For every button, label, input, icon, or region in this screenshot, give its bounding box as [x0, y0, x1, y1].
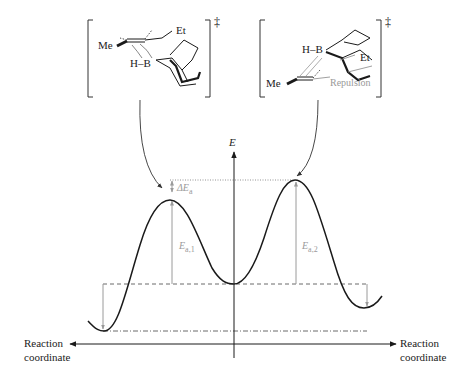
ts-right-arrow: [297, 100, 318, 176]
ea2-label: Ea,2: [302, 240, 318, 256]
ts-left-double-dagger: ‡: [214, 16, 220, 28]
energy-curve: [88, 180, 382, 331]
energy-diagram-svg: [0, 0, 468, 384]
ts-left-me-label: Me: [98, 39, 113, 51]
x-left-label-line1: Reaction: [24, 337, 63, 349]
x-right-label-line2: coordinate: [400, 351, 446, 363]
ea1-label: Ea,1: [179, 240, 195, 256]
ts-left-et-label: Et: [176, 24, 186, 36]
ts-right-double-dagger: ‡: [385, 16, 391, 28]
ts-right-hb-label: H–B: [302, 43, 323, 55]
delta-e-label: ΔEa: [177, 182, 193, 198]
x-left-label-line2: coordinate: [24, 351, 70, 363]
x-right-label-line1: Reaction: [400, 337, 439, 349]
ts-left-hb-label: H–B: [130, 57, 151, 69]
ts-right-me-label: Me: [266, 77, 281, 89]
energy-axis-label: E: [229, 136, 236, 148]
ts-right-et-label: Et: [360, 51, 370, 63]
ts-left-arrow: [140, 100, 162, 188]
repulsion-label: Repulsion: [330, 77, 371, 89]
